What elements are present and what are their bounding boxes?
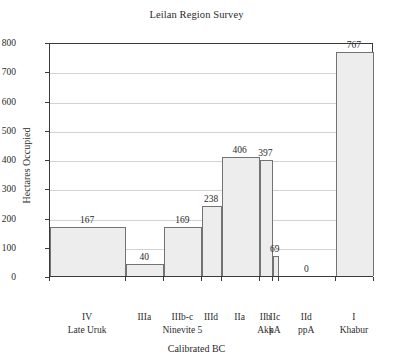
y-tick-label: 300 [0, 184, 16, 194]
bar-value-label: 406 [232, 145, 246, 155]
gridline [50, 161, 372, 162]
period-sublabel: Late Uruk [68, 325, 107, 335]
period-label: IIc [270, 312, 281, 322]
x-tick-mark [221, 277, 222, 281]
bar [50, 227, 126, 276]
period-sublabel: pA [269, 325, 281, 335]
y-tick-label: 200 [0, 214, 16, 224]
bar [164, 227, 202, 276]
plot-area [49, 43, 373, 277]
bar [126, 264, 164, 276]
y-tick-label: 100 [0, 243, 16, 253]
bar-value-label: 169 [175, 215, 189, 225]
bar-value-label: 40 [140, 252, 150, 262]
x-tick-mark [49, 277, 50, 281]
period-label: IIIa [137, 312, 151, 322]
x-tick-mark [201, 277, 202, 281]
bar-value-label: 767 [347, 40, 361, 50]
x-tick-mark [335, 277, 336, 281]
x-tick-mark [259, 277, 260, 281]
bar-value-label: 167 [80, 215, 94, 225]
y-tick-label: 400 [0, 155, 16, 165]
y-tick-label: 700 [0, 67, 16, 77]
bar-value-label: 397 [258, 148, 272, 158]
chart-container: Leilan Region Survey Hectares Occupied 0… [0, 0, 393, 364]
period-label: IIa [234, 312, 245, 322]
x-tick-mark [272, 277, 273, 281]
bar [222, 157, 260, 276]
bar-value-label: 69 [270, 244, 280, 254]
bar [336, 52, 374, 276]
y-tick-label: 600 [0, 97, 16, 107]
period-label: IId [301, 312, 312, 322]
gridline [50, 132, 372, 133]
gridline [50, 190, 372, 191]
bar [273, 256, 279, 276]
chart-title: Leilan Region Survey [0, 9, 393, 20]
period-label: IIIb-c [172, 312, 194, 322]
y-tick-label: 0 [0, 272, 16, 282]
gridline [50, 103, 372, 104]
x-tick-mark [163, 277, 164, 281]
period-label: IV [82, 312, 92, 322]
x-tick-mark [373, 277, 374, 281]
y-axis-label: Hectares Occupied [21, 96, 32, 236]
period-sublabel: Ninevite 5 [162, 325, 202, 335]
period-label: IIId [204, 312, 218, 322]
bar-value-label: 238 [204, 194, 218, 204]
x-tick-mark [125, 277, 126, 281]
gridline [50, 73, 372, 74]
x-tick-mark [278, 277, 279, 281]
y-tick-label: 800 [0, 38, 16, 48]
x-axis-label: Calibrated BC [0, 343, 393, 354]
bar-value-label: 0 [304, 264, 309, 274]
period-sublabel: Khabur [340, 325, 369, 335]
bar [260, 160, 273, 276]
bar [202, 206, 221, 276]
period-sublabel: ppA [298, 325, 314, 335]
period-label: I [352, 312, 355, 322]
y-tick-label: 500 [0, 126, 16, 136]
